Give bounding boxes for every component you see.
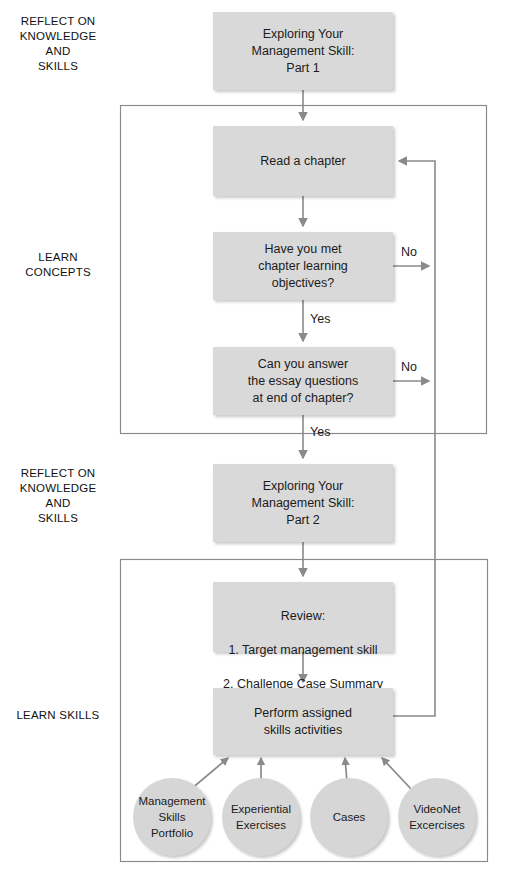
edge-label-no-objectives: No [401, 245, 417, 259]
circle-videonet-excercises: VideoNet Excercises [398, 778, 476, 856]
circle-cases: Cases [310, 778, 388, 856]
edge-label-yes-objectives: Yes [310, 312, 330, 326]
circle-experiential-exercises: Experiential Exercises [222, 778, 300, 856]
box-exploring-part-1: Exploring Your Management Skill: Part 1 [213, 12, 393, 90]
flowchart-canvas: REFLECT ON KNOWLEDGE AND SKILLS LEARN CO… [0, 0, 509, 880]
edge-label-no-essay: No [401, 360, 417, 374]
edge-videonet-to-perform [382, 758, 412, 790]
box-answer-essay: Can you answer the essay questions at en… [213, 347, 393, 415]
box-exploring-part-2: Exploring Your Management Skill: Part 2 [213, 464, 393, 542]
phase-label-learn-skills: LEARN SKILLS [2, 708, 114, 723]
edge-label-yes-essay: Yes [310, 425, 330, 439]
box-perform-skills: Perform assigned skills activities [213, 688, 393, 755]
box-met-objectives: Have you met chapter learning objectives… [213, 232, 393, 300]
box-review-title: Review: [219, 608, 387, 625]
box-review: Review: 1. Target management skill 2. Ch… [213, 582, 393, 652]
circle-management-skills-portfolio: Management Skills Portfolio [133, 778, 211, 856]
phase-label-reflect-mid: REFLECT ON KNOWLEDGE AND SKILLS [2, 466, 114, 526]
box-read-a-chapter: Read a chapter [213, 126, 393, 196]
box-review-item-1: 1. Target management skill [219, 642, 387, 659]
phase-label-reflect-top: REFLECT ON KNOWLEDGE AND SKILLS [2, 14, 114, 74]
phase-label-learn-concepts: LEARN CONCEPTS [2, 250, 114, 280]
